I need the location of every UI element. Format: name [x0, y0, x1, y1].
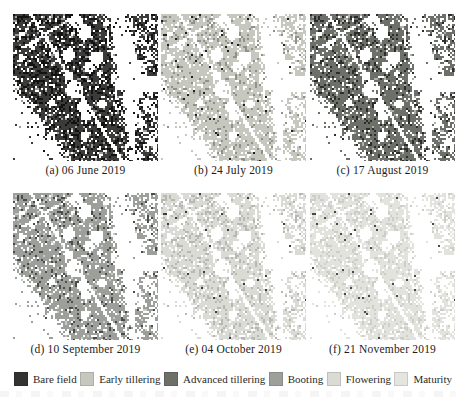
legend-swatch-maturity — [394, 372, 408, 386]
legend-item-maturity: Maturity — [394, 372, 452, 386]
classification-map-c — [310, 14, 455, 161]
legend-label-maturity: Maturity — [413, 373, 452, 385]
panel-d: (d) 10 September 2019 — [13, 193, 158, 355]
legend-label-booting: Booting — [288, 373, 323, 385]
legend-swatch-early-tillering — [80, 372, 94, 386]
classification-map-a — [13, 14, 158, 161]
legend-item-advanced-tillering: Advanced tillering — [164, 372, 265, 386]
panel-a: (a) 06 June 2019 — [13, 14, 158, 176]
legend-swatch-flowering — [327, 372, 341, 386]
cropped-caption-remnant — [0, 391, 464, 397]
panel-b: (b) 24 July 2019 — [161, 14, 306, 176]
classification-map-f — [310, 193, 455, 340]
legend-item-booting: Booting — [269, 372, 323, 386]
panel-caption-e: (e) 04 October 2019 — [161, 343, 306, 355]
classification-map-d — [13, 193, 158, 340]
legend-label-early-tillering: Early tillering — [99, 373, 160, 385]
panel-c: (c) 17 August 2019 — [310, 14, 455, 176]
panel-f: (f) 21 November 2019 — [310, 193, 455, 355]
panel-caption-b: (b) 24 July 2019 — [161, 164, 306, 176]
legend-item-bare-field: Bare field — [14, 372, 77, 386]
legend-swatch-booting — [269, 372, 283, 386]
legend-swatch-bare-field — [14, 372, 28, 386]
legend-label-bare-field: Bare field — [33, 373, 77, 385]
legend-swatch-advanced-tillering — [164, 372, 178, 386]
classification-map-e — [161, 193, 306, 340]
legend-label-flowering: Flowering — [346, 373, 391, 385]
panel-caption-f: (f) 21 November 2019 — [310, 343, 455, 355]
classification-map-b — [161, 14, 306, 161]
panel-caption-d: (d) 10 September 2019 — [13, 343, 158, 355]
legend-label-advanced-tillering: Advanced tillering — [183, 373, 265, 385]
legend-item-early-tillering: Early tillering — [80, 372, 160, 386]
panel-e: (e) 04 October 2019 — [161, 193, 306, 355]
legend-item-flowering: Flowering — [327, 372, 391, 386]
panel-caption-a: (a) 06 June 2019 — [13, 164, 158, 176]
legend: Bare field Early tillering Advanced till… — [0, 372, 464, 386]
panel-caption-c: (c) 17 August 2019 — [310, 164, 455, 176]
